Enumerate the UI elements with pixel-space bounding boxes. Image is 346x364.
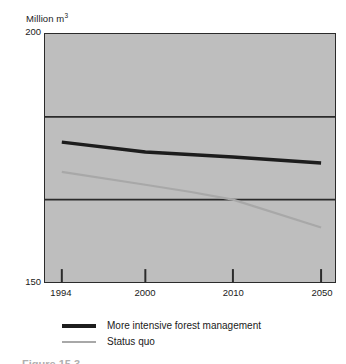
plot-area (44, 33, 336, 283)
legend-line-swatch-icon-secondary (62, 335, 96, 349)
y-axis-unit-text: Million m (26, 13, 64, 24)
x-axis-tick-label-2050: 2050 (302, 288, 342, 298)
y-axis-tick-label-min: 150 (17, 277, 41, 287)
legend-item-primary: More intensive forest management (62, 318, 342, 334)
x-axis-tick-label-1994: 1994 (41, 288, 81, 298)
legend-label-secondary: Status quo (96, 336, 155, 348)
legend-line-swatch-icon-primary (62, 319, 96, 333)
legend-label-primary: More intensive forest management (96, 320, 261, 332)
gridline-group (45, 117, 335, 200)
data-series-group (62, 142, 321, 227)
chart-legend: More intensive forest management Status … (62, 318, 342, 350)
x-axis-tick-label-2000: 2000 (125, 288, 165, 298)
x-axis-tick-label-2010: 2010 (213, 288, 253, 298)
series-line-primary (62, 142, 321, 163)
plot-svg (45, 34, 335, 282)
y-axis-unit-label: Million m3 (26, 13, 68, 24)
figure-caption-remnant: Figure 15.3 (22, 358, 80, 364)
x-axis-tick-marks (62, 269, 321, 282)
y-axis-unit-exponent: 3 (64, 12, 68, 19)
y-axis-tick-label-max: 200 (17, 27, 41, 37)
legend-item-secondary: Status quo (62, 334, 342, 350)
figure-line-chart: Million m3 200 150 1994200020102050 More… (0, 0, 346, 364)
